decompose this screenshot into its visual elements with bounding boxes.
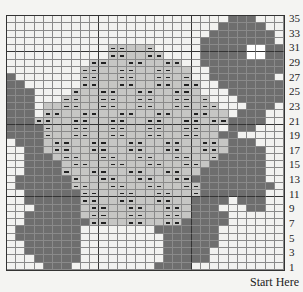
stitch-cell xyxy=(164,52,173,59)
stitch-cell xyxy=(275,132,284,139)
stitch-cell xyxy=(62,23,71,30)
stitch-cell xyxy=(229,16,238,23)
stitch-cell xyxy=(90,60,99,67)
stitch-cell xyxy=(127,255,136,262)
stitch-cell xyxy=(90,125,99,132)
row-label: 35 xyxy=(289,13,300,24)
stitch-cell xyxy=(238,81,247,88)
stitch-cell xyxy=(7,67,16,74)
stitch-cell xyxy=(81,226,90,233)
stitch-cell xyxy=(155,161,164,168)
stitch-cell xyxy=(275,125,284,132)
stitch-cell xyxy=(118,16,127,23)
stitch-cell xyxy=(35,38,44,45)
stitch-cell xyxy=(182,89,191,96)
stitch-cell xyxy=(155,139,164,146)
stitch-cell xyxy=(118,212,127,219)
stitch-cell xyxy=(192,74,201,81)
stitch-cell xyxy=(201,81,210,88)
stitch-cell xyxy=(16,255,25,262)
stitch-cell xyxy=(247,139,256,146)
stitch-cell xyxy=(182,154,191,161)
stitch-cell xyxy=(72,110,81,117)
stitch-cell xyxy=(53,96,62,103)
stitch-cell xyxy=(16,45,25,52)
stitch-cell xyxy=(25,190,34,197)
stitch-cell xyxy=(62,197,71,204)
stitch-cell xyxy=(25,176,34,183)
stitch-cell xyxy=(182,176,191,183)
stitch-cell xyxy=(16,89,25,96)
stitch-cell xyxy=(81,103,90,110)
stitch-cell xyxy=(256,38,265,45)
stitch-cell xyxy=(7,234,16,241)
stitch-cell xyxy=(266,161,275,168)
stitch-cell xyxy=(16,38,25,45)
stitch-cell xyxy=(164,67,173,74)
stitch-cell xyxy=(266,125,275,132)
stitch-cell xyxy=(53,176,62,183)
stitch-cell xyxy=(173,241,182,248)
stitch-cell xyxy=(99,234,108,241)
stitch-cell xyxy=(256,219,265,226)
stitch-cell xyxy=(118,197,127,204)
stitch-cell xyxy=(25,248,34,255)
stitch-cell xyxy=(219,52,228,59)
stitch-cell xyxy=(146,226,155,233)
stitch-cell xyxy=(81,139,90,146)
stitch-cell xyxy=(25,183,34,190)
stitch-cell xyxy=(182,16,191,23)
stitch-cell xyxy=(44,248,53,255)
stitch-cell xyxy=(182,81,191,88)
stitch-cell xyxy=(275,212,284,219)
stitch-cell xyxy=(90,248,99,255)
stitch-cell xyxy=(62,241,71,248)
stitch-cell xyxy=(16,241,25,248)
stitch-cell xyxy=(275,81,284,88)
stitch-cell xyxy=(155,23,164,30)
stitch-cell xyxy=(62,132,71,139)
stitch-cell xyxy=(44,74,53,81)
stitch-cell xyxy=(201,38,210,45)
stitch-cell xyxy=(164,161,173,168)
stitch-cell xyxy=(192,103,201,110)
stitch-cell xyxy=(201,147,210,154)
stitch-cell xyxy=(16,183,25,190)
stitch-cell xyxy=(182,118,191,125)
stitch-cell xyxy=(164,183,173,190)
stitch-cell xyxy=(81,60,90,67)
stitch-cell xyxy=(81,212,90,219)
stitch-cell xyxy=(90,205,99,212)
stitch-cell xyxy=(35,60,44,67)
stitch-cell xyxy=(210,263,219,270)
stitch-cell xyxy=(238,248,247,255)
stitch-cell xyxy=(62,31,71,38)
stitch-cell xyxy=(44,60,53,67)
stitch-cell xyxy=(16,168,25,175)
stitch-cell xyxy=(136,183,145,190)
stitch-cell xyxy=(25,103,34,110)
stitch-cell xyxy=(164,176,173,183)
stitch-cell xyxy=(146,248,155,255)
stitch-cell xyxy=(99,176,108,183)
stitch-cell xyxy=(81,161,90,168)
stitch-cell xyxy=(247,161,256,168)
stitch-cell xyxy=(118,96,127,103)
stitch-cell xyxy=(25,31,34,38)
stitch-cell xyxy=(192,226,201,233)
stitch-cell xyxy=(127,96,136,103)
stitch-cell xyxy=(256,96,265,103)
stitch-cell xyxy=(256,161,265,168)
stitch-cell xyxy=(44,212,53,219)
stitch-cell xyxy=(44,96,53,103)
stitch-cell xyxy=(173,125,182,132)
stitch-cell xyxy=(173,248,182,255)
stitch-cell xyxy=(136,67,145,74)
stitch-cell xyxy=(219,176,228,183)
stitch-cell xyxy=(146,263,155,270)
stitch-cell xyxy=(182,67,191,74)
stitch-cell xyxy=(136,168,145,175)
stitch-cell xyxy=(44,45,53,52)
stitch-cell xyxy=(146,67,155,74)
stitch-cell xyxy=(62,248,71,255)
